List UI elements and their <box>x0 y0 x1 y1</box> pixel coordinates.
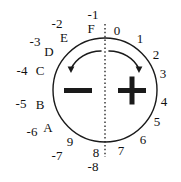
hex-label-9: 9 <box>67 135 74 148</box>
hex-label-0: 0 <box>114 24 121 37</box>
hex-label-e: E <box>60 31 68 44</box>
hex-label-3: 3 <box>160 67 167 80</box>
dec-label-minus-8: -8 <box>88 160 99 173</box>
dec-label-minus-4: -4 <box>17 64 28 77</box>
dec-label-minus-2: -2 <box>52 17 63 30</box>
hex-label-8: 8 <box>93 146 100 159</box>
hex-label-7: 7 <box>118 144 125 157</box>
hex-label-d: D <box>44 45 53 58</box>
hex-label-4: 4 <box>161 95 168 108</box>
hex-label-c: C <box>36 64 45 77</box>
hex-label-a: A <box>43 121 52 134</box>
hex-label-5: 5 <box>154 115 161 128</box>
hex-label-2: 2 <box>153 48 160 61</box>
hex-label-b: B <box>36 98 45 111</box>
dec-label-minus-5: -5 <box>16 97 27 110</box>
hex-signed-number-wheel: 0 1 2 3 4 5 6 7 8 9 A B C D E F -1 -2 -3… <box>0 0 181 182</box>
counterclockwise-arrow-left <box>68 51 101 73</box>
hex-label-6: 6 <box>140 133 147 146</box>
plus-sign <box>118 77 146 105</box>
dec-label-minus-1: -1 <box>88 8 99 21</box>
dec-label-minus-3: -3 <box>30 35 41 48</box>
dec-label-minus-6: -6 <box>27 125 38 138</box>
hex-label-1: 1 <box>137 32 144 45</box>
minus-sign <box>64 88 92 93</box>
dec-label-minus-7: -7 <box>52 149 63 162</box>
clockwise-arrow-right <box>109 51 142 73</box>
hex-label-f: F <box>87 22 94 35</box>
